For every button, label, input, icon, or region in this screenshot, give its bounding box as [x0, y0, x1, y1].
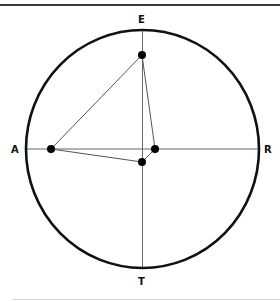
- label-left: A: [11, 145, 19, 155]
- label-top: E: [138, 15, 145, 25]
- point-right: [151, 145, 159, 153]
- point-left: [47, 145, 55, 153]
- point-bottom: [138, 158, 146, 166]
- data-polygon: [51, 55, 155, 162]
- point-top: [138, 51, 146, 59]
- label-bottom: T: [138, 277, 145, 287]
- label-right: R: [264, 145, 272, 155]
- diagram-canvas: [0, 0, 280, 301]
- bottom-rule: [12, 299, 280, 300]
